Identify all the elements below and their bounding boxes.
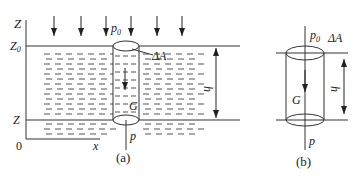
- depth-label: h: [328, 86, 342, 92]
- x-axis-label: x: [92, 139, 99, 153]
- surface-level-label: Z0: [10, 39, 21, 54]
- weight-label: G: [129, 99, 138, 113]
- panel-a: Z Z0 Z 0 x p0 ΔA G p h (a): [10, 16, 240, 165]
- area-label: ΔA: [327, 31, 343, 45]
- area-label: ΔA: [151, 49, 167, 63]
- surface-pressure-label: p0: [309, 28, 320, 44]
- hydrostatic-diagram: Z Z0 Z 0 x p0 ΔA G p h (a) p0 ΔA G p h (…: [0, 0, 357, 181]
- surface-pressure-label: p0: [110, 21, 121, 37]
- bottom-pressure-label: p: [129, 129, 136, 143]
- origin-label: 0: [16, 139, 22, 153]
- weight-label: G: [292, 93, 301, 107]
- bottom-pressure-label: p: [308, 134, 315, 148]
- depth-label: h: [201, 86, 215, 92]
- z-axis-label: Z: [14, 16, 22, 31]
- panel-a-caption: (a): [116, 150, 130, 165]
- panel-b-caption: (b): [296, 154, 311, 169]
- panel-b: p0 ΔA G p h (b): [276, 26, 348, 169]
- depth-level-label: Z: [13, 113, 20, 127]
